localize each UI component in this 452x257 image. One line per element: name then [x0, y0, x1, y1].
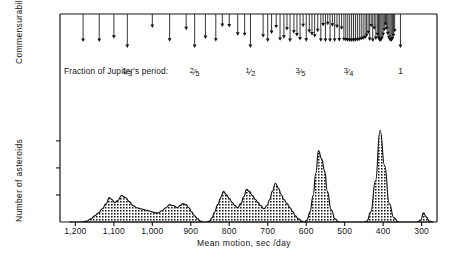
commensurability-arrows — [81, 14, 402, 48]
asteroid-distribution-curve — [70, 130, 434, 222]
plot-canvas — [0, 0, 452, 257]
kirkwood-gaps-figure: Commensurability Number of asteroids Mea… — [0, 0, 452, 257]
